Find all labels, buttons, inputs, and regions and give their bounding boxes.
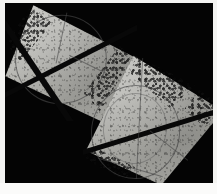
figure-root xyxy=(0,0,217,194)
specimen-lower-right xyxy=(83,53,213,183)
caption-strip xyxy=(0,183,217,194)
imaging-field xyxy=(5,3,213,183)
